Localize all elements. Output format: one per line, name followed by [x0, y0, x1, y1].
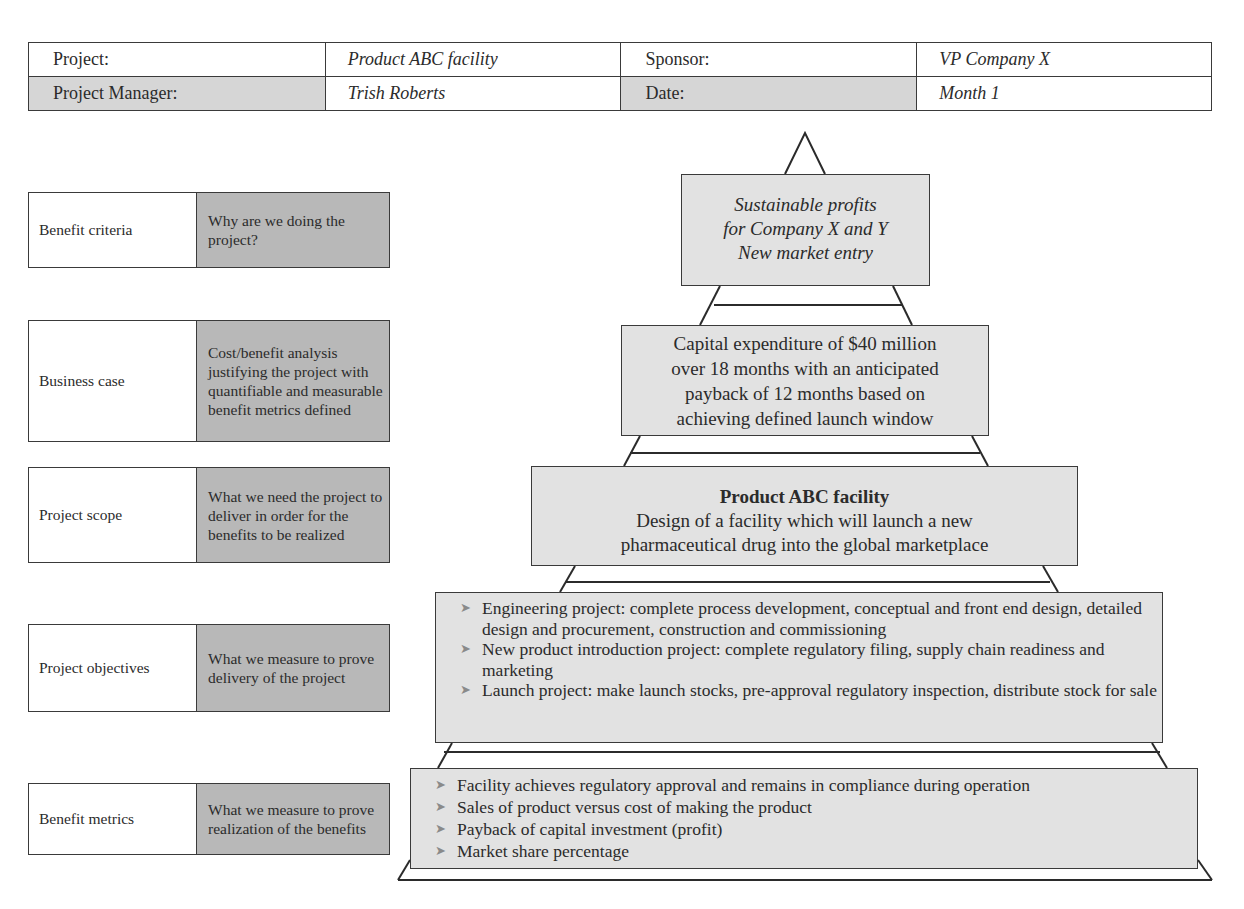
tier-line: Capital expenditure of $40 million: [622, 331, 988, 356]
arrow-bullet-icon: ➤: [435, 796, 446, 818]
metric-item: ➤Facility achieves regulatory approval a…: [411, 774, 1197, 796]
objective-text: Engineering project: complete process de…: [482, 598, 1142, 639]
arrow-bullet-icon: ➤: [435, 840, 446, 862]
tier-benefit-criteria: Sustainable profits for Company X and Y …: [681, 174, 930, 286]
tier-line: over 18 months with an anticipated: [622, 356, 988, 381]
metric-item: ➤Sales of product versus cost of making …: [411, 796, 1197, 818]
tier-line: for Company X and Y: [682, 217, 929, 241]
tier-line: Design of a facility which will launch a…: [532, 509, 1077, 533]
arrow-bullet-icon: ➤: [435, 774, 446, 796]
tier-line: New market entry: [682, 241, 929, 265]
metric-text: Market share percentage: [457, 841, 629, 861]
objective-item: ➤Engineering project: complete process d…: [436, 598, 1162, 639]
objective-text: Launch project: make launch stocks, pre-…: [482, 680, 1157, 700]
tier-benefit-metrics: ➤Facility achieves regulatory approval a…: [410, 768, 1198, 869]
objectives-list: ➤Engineering project: complete process d…: [436, 598, 1162, 701]
objective-text: New product introduction project: comple…: [482, 639, 1105, 680]
tier-line: payback of 12 months based on: [622, 381, 988, 406]
metric-item: ➤Payback of capital investment (profit): [411, 818, 1197, 840]
metric-text: Sales of product versus cost of making t…: [457, 797, 812, 817]
tier-line: Sustainable profits: [682, 193, 929, 217]
objective-item: ➤Launch project: make launch stocks, pre…: [436, 680, 1162, 701]
tier-line: achieving defined launch window: [622, 406, 988, 431]
metric-text: Facility achieves regulatory approval an…: [457, 775, 1030, 795]
arrow-bullet-icon: ➤: [460, 680, 471, 701]
metric-text: Payback of capital investment (profit): [457, 819, 722, 839]
metrics-list: ➤Facility achieves regulatory approval a…: [411, 774, 1197, 862]
tier-business-case: Capital expenditure of $40 million over …: [621, 325, 989, 436]
arrow-bullet-icon: ➤: [460, 639, 471, 660]
objective-item: ➤New product introduction project: compl…: [436, 639, 1162, 680]
metric-item: ➤Market share percentage: [411, 840, 1197, 862]
tier-project-scope: Product ABC facility Design of a facilit…: [531, 466, 1078, 566]
tier-project-objectives: ➤Engineering project: complete process d…: [435, 592, 1163, 743]
tier-title: Product ABC facility: [532, 485, 1077, 509]
arrow-bullet-icon: ➤: [435, 818, 446, 840]
tier-line: pharmaceutical drug into the global mark…: [532, 533, 1077, 557]
arrow-bullet-icon: ➤: [460, 598, 471, 619]
